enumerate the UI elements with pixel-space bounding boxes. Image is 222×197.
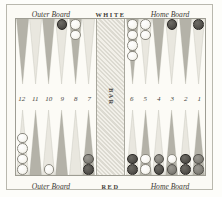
point-1[interactable] (192, 108, 205, 175)
point-11[interactable] (29, 108, 42, 175)
point-numbers-row: 121110987 654321 (15, 92, 206, 106)
checker-stack-point-7[interactable] (82, 154, 95, 175)
point-4[interactable] (152, 108, 165, 175)
checker-light[interactable] (167, 154, 178, 165)
point-number-12: 12 (15, 96, 29, 103)
checker-stack-point-2[interactable] (179, 154, 192, 175)
backgammon-board-figure: Outer Board WHITE Home Board BAR 1211109… (0, 0, 222, 197)
checker-stack-point-6[interactable] (126, 19, 139, 61)
checker-mid[interactable] (83, 154, 94, 165)
point-number-4: 4 (152, 96, 166, 103)
checker-light[interactable] (127, 40, 138, 51)
bottom-outer-board-label: Outer Board (32, 182, 70, 191)
checker-stack-point-5[interactable] (139, 154, 152, 175)
point-6[interactable] (126, 19, 139, 86)
checker-stack-point-4[interactable] (152, 154, 165, 175)
red-player-label: RED (101, 183, 119, 190)
checker-light[interactable] (140, 19, 151, 30)
point-triangle (152, 19, 165, 86)
white-player-label: WHITE (95, 11, 125, 18)
point-triangle (55, 108, 68, 175)
point-4[interactable] (152, 19, 165, 86)
point-12[interactable] (16, 19, 29, 86)
checker-dark[interactable] (180, 154, 191, 165)
point-triangle (179, 19, 192, 86)
quadrant-bottom-left-outer-board (16, 108, 95, 175)
checker-stack-point-1[interactable] (192, 19, 205, 30)
point-number-8: 8 (69, 96, 83, 103)
point-3[interactable] (165, 108, 178, 175)
point-number-11: 11 (29, 96, 43, 103)
point-10[interactable] (42, 108, 55, 175)
checker-light[interactable] (140, 164, 151, 175)
checker-light[interactable] (44, 164, 55, 175)
point-triangle (69, 108, 82, 175)
checker-stack-point-6[interactable] (126, 154, 139, 175)
point-triangle (29, 19, 42, 86)
point-number-3: 3 (166, 96, 180, 103)
checker-light[interactable] (17, 143, 28, 154)
checker-stack-point-3[interactable] (165, 154, 178, 175)
point-7[interactable] (82, 108, 95, 175)
checker-dark[interactable] (180, 164, 191, 175)
bottom-home-board-label: Home Board (151, 182, 190, 191)
point-triangle (16, 19, 29, 86)
checker-dark[interactable] (167, 19, 178, 30)
checker-dark[interactable] (127, 164, 138, 175)
point-number-1: 1 (193, 96, 207, 103)
point-11[interactable] (29, 19, 42, 86)
checker-light[interactable] (140, 154, 151, 165)
checker-dark[interactable] (154, 164, 165, 175)
checker-light[interactable] (17, 133, 28, 144)
point-triangle (29, 108, 42, 175)
checker-light[interactable] (127, 51, 138, 62)
point-6[interactable] (126, 108, 139, 175)
checker-stack-point-5[interactable] (139, 19, 152, 40)
checker-mid[interactable] (193, 164, 204, 175)
point-1[interactable] (192, 19, 205, 86)
point-7[interactable] (82, 19, 95, 86)
point-5[interactable] (139, 19, 152, 86)
point-9[interactable] (55, 108, 68, 175)
point-number-6: 6 (125, 96, 139, 103)
quadrant-top-left-outer-board (16, 19, 95, 86)
checker-mid[interactable] (167, 164, 178, 175)
point-5[interactable] (139, 108, 152, 175)
checker-dark[interactable] (193, 19, 204, 30)
point-2[interactable] (179, 108, 192, 175)
checker-dark[interactable] (57, 19, 68, 30)
checker-light[interactable] (140, 30, 151, 41)
quadrant-bottom-right-home-board (126, 108, 205, 175)
point-8[interactable] (69, 19, 82, 86)
point-number-7: 7 (83, 96, 97, 103)
point-number-9: 9 (56, 96, 70, 103)
top-label-row: Outer Board WHITE Home Board (15, 5, 206, 18)
point-12[interactable] (16, 108, 29, 175)
checker-mid[interactable] (154, 154, 165, 165)
checker-mid[interactable] (193, 154, 204, 165)
point-triangle (42, 19, 55, 86)
point-number-10: 10 (42, 96, 56, 103)
checker-stack-point-10[interactable] (42, 164, 55, 175)
checker-light[interactable] (17, 154, 28, 165)
checker-light[interactable] (127, 19, 138, 30)
point-8[interactable] (69, 108, 82, 175)
checker-light[interactable] (127, 30, 138, 41)
point-9[interactable] (55, 19, 68, 86)
checker-stack-point-12[interactable] (16, 133, 29, 175)
checker-light[interactable] (17, 164, 28, 175)
point-2[interactable] (179, 19, 192, 86)
checker-stack-point-1[interactable] (192, 154, 205, 175)
checker-dark[interactable] (127, 154, 138, 165)
checker-light[interactable] (70, 19, 81, 30)
checker-stack-point-3[interactable] (165, 19, 178, 30)
point-number-5: 5 (139, 96, 153, 103)
checker-stack-point-9[interactable] (55, 19, 68, 30)
point-3[interactable] (165, 19, 178, 86)
bottom-label-row: Outer Board RED Home Board (15, 177, 206, 190)
checker-dark[interactable] (83, 164, 94, 175)
quadrant-top-right-home-board (126, 19, 205, 86)
checker-stack-point-8[interactable] (69, 19, 82, 40)
point-10[interactable] (42, 19, 55, 86)
checker-light[interactable] (70, 30, 81, 41)
